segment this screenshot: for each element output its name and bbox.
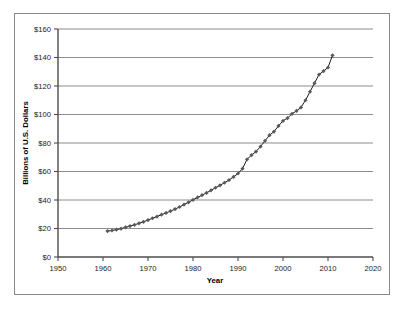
x-tick-label: 2000 — [275, 264, 292, 273]
data-point-marker — [119, 227, 123, 231]
chart-canvas: $0$20$40$60$80$100$120$140$160 195019601… — [0, 0, 404, 317]
y-tick-label: $100 — [34, 110, 51, 119]
data-point-marker — [155, 214, 159, 218]
y-tick-label: $160 — [34, 25, 51, 34]
data-point-marker — [218, 183, 222, 187]
y-axis-title: Billions of U.S. Dollars — [21, 101, 30, 185]
data-point-marker — [132, 223, 136, 227]
data-point-marker — [312, 81, 316, 85]
data-point-marker — [146, 218, 150, 222]
data-point-marker — [137, 221, 141, 225]
y-axis-ticks: $0$20$40$60$80$100$120$140$160 — [34, 25, 58, 262]
data-point-marker — [159, 213, 163, 217]
data-point-marker — [173, 207, 177, 211]
y-tick-label: $20 — [38, 224, 51, 233]
data-point-marker — [110, 228, 114, 232]
x-tick-label: 1970 — [140, 264, 157, 273]
data-point-marker — [222, 181, 226, 185]
data-point-marker — [213, 186, 217, 190]
data-point-marker — [141, 220, 145, 224]
data-point-marker — [150, 216, 154, 220]
data-point-marker — [128, 224, 132, 228]
data-point-marker — [209, 188, 213, 192]
x-tick-label: 2010 — [320, 264, 337, 273]
y-tick-label: $60 — [38, 167, 51, 176]
x-tick-label: 1960 — [95, 264, 112, 273]
gridlines — [58, 29, 373, 229]
x-tick-label: 1990 — [230, 264, 247, 273]
data-point-marker — [330, 53, 334, 57]
data-point-marker — [191, 198, 195, 202]
x-axis-title: Year — [207, 276, 223, 285]
y-tick-label: $40 — [38, 196, 51, 205]
data-point-marker — [308, 90, 312, 94]
data-point-marker — [105, 229, 109, 233]
data-point-marker — [182, 202, 186, 206]
data-point-marker — [168, 209, 172, 213]
data-point-marker — [195, 195, 199, 199]
x-tick-label: 1980 — [185, 264, 202, 273]
y-tick-label: $140 — [34, 53, 51, 62]
y-tick-label: $120 — [34, 82, 51, 91]
y-tick-label: $0 — [43, 253, 51, 262]
data-point-marker — [204, 191, 208, 195]
y-tick-label: $80 — [38, 139, 51, 148]
data-point-marker — [200, 193, 204, 197]
x-axis-ticks: 19501960197019801990200020102020 — [50, 257, 382, 273]
data-point-marker — [164, 211, 168, 215]
chart-figure: $0$20$40$60$80$100$120$140$160 195019601… — [0, 0, 404, 317]
data-point-marker — [186, 200, 190, 204]
x-tick-label: 2020 — [365, 264, 382, 273]
data-point-marker — [177, 205, 181, 209]
x-tick-label: 1950 — [50, 264, 67, 273]
